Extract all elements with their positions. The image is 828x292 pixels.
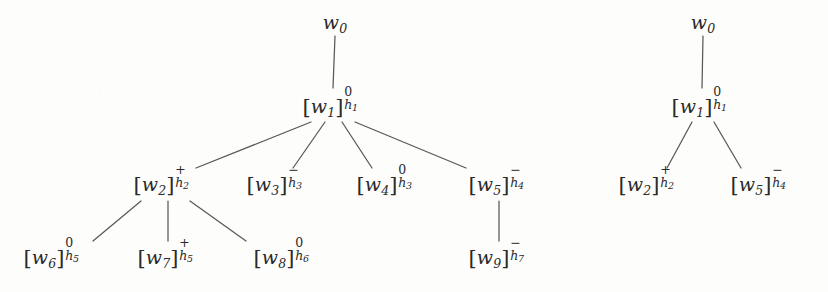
tree-node-l-w1: [w1]0h1 <box>302 94 363 117</box>
tree-node-l-w0: w0 <box>323 13 347 32</box>
tree-edge-r-w1-to-r-w2 <box>667 122 692 168</box>
tree-node-r-w5: [w5]−h4 <box>730 172 791 195</box>
tree-node-l-w9: [w9]−h7 <box>468 245 529 268</box>
tree-node-l-w5: [w5]−h4 <box>468 172 529 195</box>
tree-node-l-w2: [w2]+h2 <box>133 172 194 195</box>
tree-edge-l-w0-to-l-w1 <box>333 36 335 88</box>
tree-edges-layer <box>0 0 828 292</box>
tree-edge-l-w2-to-l-w6 <box>93 201 141 241</box>
tree-edge-l-w1-to-l-w4 <box>342 122 372 168</box>
tree-edge-l-w1-to-l-w5 <box>355 122 466 168</box>
tree-node-l-w7: [w7]+h5 <box>137 245 198 268</box>
tree-edge-r-w1-to-r-w5 <box>714 122 741 168</box>
tree-node-r-w0: w0 <box>691 13 715 32</box>
tree-edge-r-w0-to-r-w1 <box>702 36 703 88</box>
tree-node-l-w6: [w6]0h5 <box>23 245 84 268</box>
tree-node-r-w1: [w1]0h1 <box>671 94 732 117</box>
figure-canvas: w0[w1]0h1[w2]+h2[w3]−h3[w4]0h3[w5]−h4[w6… <box>0 0 828 292</box>
edge-group <box>93 36 741 241</box>
tree-node-l-w3: [w3]−h3 <box>246 172 307 195</box>
tree-node-r-w2: [w2]+h2 <box>618 172 679 195</box>
tree-node-l-w8: [w8]0h6 <box>253 245 314 268</box>
tree-edge-l-w2-to-l-w8 <box>190 201 246 241</box>
tree-node-l-w4: [w4]0h3 <box>356 172 417 195</box>
